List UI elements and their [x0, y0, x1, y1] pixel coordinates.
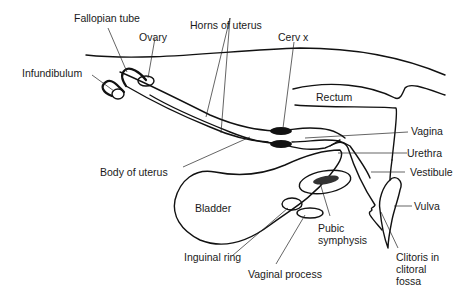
label-body-of-uterus: Body of uterus: [100, 166, 168, 178]
label-infundibulum: Infundibulum: [22, 67, 82, 79]
label-vestibule: Vestibule: [410, 166, 453, 178]
label-ovary: Ovary: [139, 31, 167, 43]
dorsal-body-line: [86, 48, 445, 75]
vaginal-process-shape: [297, 208, 323, 218]
pubic-symphysis-core: [313, 174, 340, 186]
reproductive-tract-diagram: Fallopian tube Ovary Horns of uterus Cer…: [0, 0, 474, 299]
label-vagina: Vagina: [411, 125, 443, 137]
bladder-outline: [174, 150, 341, 244]
label-inguinal-ring: Inguinal ring: [184, 251, 241, 263]
infundibulum-curl: [103, 81, 124, 96]
horn-inner-1: [126, 86, 268, 142]
label-horns-of-uterus: Horns of uterus: [190, 19, 262, 31]
cervix-mass-upper: [270, 127, 292, 135]
vestibule-posterior-wall: [390, 160, 392, 180]
label-clitoris: Clitoris in clitoral fossa: [396, 251, 439, 287]
label-cervix: Cerv x: [278, 31, 308, 43]
vulva-outline: [380, 178, 401, 248]
label-vaginal-process: Vaginal process: [248, 268, 322, 280]
label-urethra: Urethra: [407, 147, 442, 159]
label-bladder: Bladder: [195, 202, 231, 214]
cervix-mass-lower: [270, 140, 292, 148]
rectum-lower-wall: [295, 105, 397, 160]
label-rectum: Rectum: [316, 91, 352, 103]
label-vulva: Vulva: [414, 200, 440, 212]
label-fallopian-tube: Fallopian tube: [74, 12, 140, 24]
label-pubic-symphysis: Pubic symphysis: [318, 222, 367, 246]
